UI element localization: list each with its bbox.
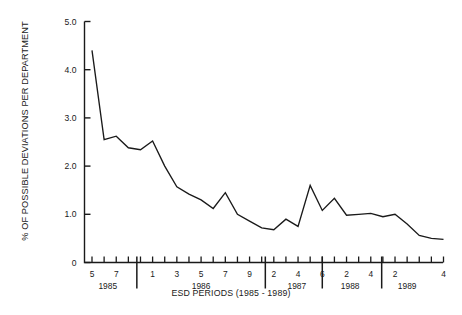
- y-tick-label: 3.0: [65, 113, 77, 123]
- y-tick-label: 2.0: [65, 161, 77, 171]
- y-tick-label: 0: [72, 258, 77, 268]
- y-tick-label: 5.0: [65, 17, 77, 27]
- x-tick-label: 2: [271, 269, 276, 279]
- y-axis-tick-labels: 01.02.03.04.05.0: [65, 17, 77, 268]
- x-axis-tick-labels: 57135792462424: [90, 269, 447, 279]
- x-tick-label: 5: [199, 269, 204, 279]
- x-tick-label: 6: [320, 269, 325, 279]
- y-tick-label: 4.0: [65, 65, 77, 75]
- x-tick-label: 7: [223, 269, 228, 279]
- x-tick-label: 4: [296, 269, 301, 279]
- chart-container: % OF POSSIBLE DEVIATIONS PER DEPARTMENT …: [0, 0, 462, 315]
- line-chart-svg: 01.02.03.04.05.0 57135792462424 19851986…: [0, 0, 462, 315]
- x-tick-label: 1: [150, 269, 155, 279]
- axis-lines: [85, 22, 444, 263]
- x-tick-label: 4: [368, 269, 373, 279]
- data-series-line: [92, 50, 444, 239]
- x-tick-label: 7: [114, 269, 119, 279]
- x-tick-label: 4: [441, 269, 446, 279]
- x-tick-label: 5: [90, 269, 95, 279]
- year-label: 1989: [398, 281, 417, 291]
- y-tick-label: 1.0: [65, 209, 77, 219]
- year-label: 1988: [341, 281, 360, 291]
- year-label: 1985: [98, 281, 117, 291]
- y-axis-tick-marks: [85, 22, 91, 263]
- x-tick-label: 3: [175, 269, 180, 279]
- x-tick-label: 9: [247, 269, 252, 279]
- x-tick-label: 2: [393, 269, 398, 279]
- x-axis-tick-marks: [92, 257, 444, 263]
- x-axis-title: ESD PERIODS (1985 - 1989): [171, 288, 290, 298]
- x-tick-label: 2: [344, 269, 349, 279]
